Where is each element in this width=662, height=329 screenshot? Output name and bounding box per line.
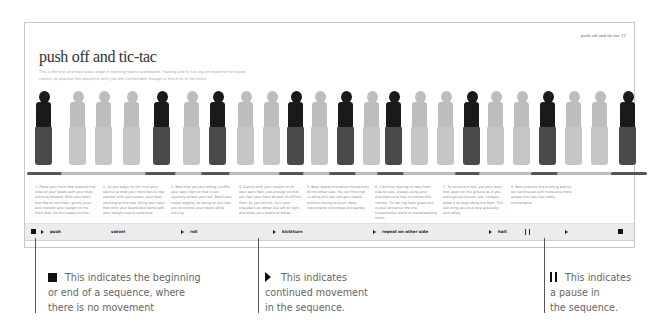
torso xyxy=(364,102,379,128)
play-triangle-icon xyxy=(265,272,271,282)
torso xyxy=(464,102,479,128)
torso xyxy=(566,102,581,128)
legs xyxy=(385,127,402,165)
stop-square-icon xyxy=(31,229,36,234)
legs xyxy=(237,127,254,165)
skater-sequence-figures xyxy=(31,87,631,183)
stop-square-icon xyxy=(48,273,57,282)
skater-figure xyxy=(535,91,561,177)
legs xyxy=(287,127,304,165)
legs xyxy=(539,127,556,165)
skater-figure xyxy=(615,91,641,177)
legend-play: This indicates continued movement in the… xyxy=(265,270,368,315)
skater-figure xyxy=(407,91,433,177)
skater-figure xyxy=(483,91,509,177)
step-caption: 7. To come to a halt, put your back foot… xyxy=(443,185,505,216)
play-triangle-icon xyxy=(41,230,44,234)
legs xyxy=(591,127,608,165)
legs xyxy=(463,127,480,165)
sequence-step: roll xyxy=(181,229,197,234)
sequence-step: push xyxy=(41,229,61,234)
play-triangle-icon xyxy=(181,230,184,234)
sequence-step-label: push xyxy=(50,229,61,234)
legend-pause: This indicates a pause in the sequence. xyxy=(550,270,631,315)
sequence-step-label: kicktturn xyxy=(282,229,303,234)
torso xyxy=(288,102,303,128)
skater-figure xyxy=(307,91,333,177)
legs xyxy=(411,127,428,165)
legs xyxy=(69,127,86,165)
sequence-step: swivel xyxy=(111,229,125,234)
legs xyxy=(337,127,354,165)
sequence-step-label: swivel xyxy=(111,229,125,234)
torso xyxy=(540,102,555,128)
torso xyxy=(184,102,199,128)
torso xyxy=(338,102,353,128)
skater-figure xyxy=(333,91,359,177)
skater-figure xyxy=(233,91,259,177)
step-caption: 3. Now that you are rolling, shuffle you… xyxy=(171,185,233,216)
sequence-step xyxy=(31,229,36,234)
skater-figure xyxy=(259,91,285,177)
legs xyxy=(487,127,504,165)
skater-figure xyxy=(561,91,587,177)
skater-figure xyxy=(587,91,613,177)
torso xyxy=(514,102,529,128)
step-captions: 1. Place your front foot towards the nos… xyxy=(35,185,631,221)
legs xyxy=(123,127,140,165)
legs xyxy=(311,127,328,165)
skater-figure xyxy=(179,91,205,177)
step-caption: 2. As you begin to roll, turn your stanc… xyxy=(103,185,165,216)
play-triangle-icon xyxy=(489,230,492,234)
skater-figure xyxy=(283,91,309,177)
torso xyxy=(412,102,427,128)
sequence-step xyxy=(618,229,623,234)
legend-stop: This indicates the beginning or end of a… xyxy=(48,270,201,315)
torso xyxy=(620,102,635,128)
legs xyxy=(35,127,52,165)
leader-line-pause xyxy=(544,238,545,313)
step-caption: 8. Now practise the pushing and tic-tac … xyxy=(511,185,573,206)
book-page: push off and tic-tac 21 push off and tic… xyxy=(24,22,635,248)
legs xyxy=(437,127,454,165)
legs xyxy=(363,127,380,165)
torso xyxy=(154,102,169,128)
intro-paragraph: This is the first and most basic stage i… xyxy=(39,69,249,84)
legs xyxy=(153,127,170,165)
skater-figure xyxy=(31,91,57,177)
play-triangle-icon xyxy=(273,230,276,234)
torso xyxy=(312,102,327,128)
torso xyxy=(238,102,253,128)
pause-bars-icon xyxy=(550,272,557,282)
play-triangle-icon xyxy=(565,230,568,234)
step-caption: 5. Now repeat the same movements to the … xyxy=(307,185,369,211)
torso xyxy=(438,102,453,128)
running-head: push off and tic-tac 21 xyxy=(581,33,626,38)
leader-line-play xyxy=(258,238,259,313)
torso xyxy=(264,102,279,128)
skater-figure xyxy=(433,91,459,177)
sequence-step-label: halt xyxy=(498,229,507,234)
torso xyxy=(210,102,225,128)
skater-figure xyxy=(65,91,91,177)
pause-bars-icon xyxy=(525,229,530,235)
skateboard-icon xyxy=(27,172,63,175)
sequence-step xyxy=(565,229,574,234)
skater-figure xyxy=(119,91,145,177)
legs xyxy=(183,127,200,165)
skater-figure xyxy=(149,91,175,177)
sequence-step: kicktturn xyxy=(273,229,303,234)
legs xyxy=(263,127,280,165)
torso xyxy=(592,102,607,128)
play-triangle-icon xyxy=(373,230,376,234)
legs xyxy=(565,127,582,165)
step-caption: 6. Continue making tic-tacs from side to… xyxy=(375,185,437,221)
sequence-step-label: repeat on other side xyxy=(382,229,428,234)
legs xyxy=(513,127,530,165)
torso xyxy=(36,102,51,128)
legs xyxy=(95,127,112,165)
legs xyxy=(619,127,636,165)
skater-figure xyxy=(205,91,231,177)
sequence-step: halt xyxy=(489,229,507,234)
skater-figure xyxy=(381,91,407,177)
